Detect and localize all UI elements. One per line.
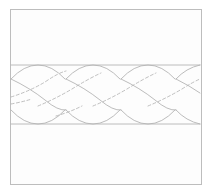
panel-border (11, 10, 202, 185)
figure-root: A square framed panel containing a horiz… (0, 0, 218, 192)
braid-diagram-canvas (0, 0, 218, 192)
